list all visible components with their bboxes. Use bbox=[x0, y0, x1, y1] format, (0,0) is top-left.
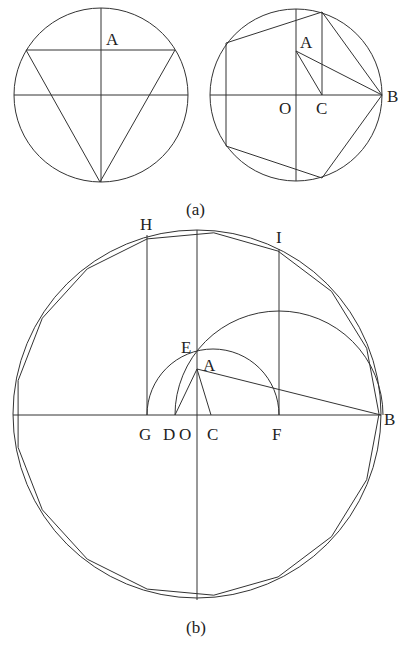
point-label-b: B bbox=[384, 410, 395, 429]
point-label-o: O bbox=[279, 99, 291, 118]
caption-a: (a) bbox=[186, 200, 205, 219]
point-label-g: G bbox=[139, 425, 151, 444]
construction-line bbox=[197, 369, 381, 415]
figure-a-triangle-construction: A bbox=[14, 8, 188, 182]
point-label-e: E bbox=[181, 338, 191, 357]
construction-line bbox=[100, 50, 175, 182]
point-label-o: O bbox=[179, 425, 191, 444]
construction-line bbox=[26, 50, 100, 182]
point-label-a: A bbox=[106, 30, 119, 49]
point-label-h: H bbox=[140, 215, 152, 234]
point-label-b: B bbox=[387, 87, 398, 106]
construction-line bbox=[175, 369, 197, 415]
point-label-i: I bbox=[276, 228, 282, 247]
geometry-diagram: A AOCB (a) HIEAGDOCFB (b) bbox=[0, 0, 405, 652]
point-label-a: A bbox=[300, 33, 313, 52]
caption-b: (b) bbox=[186, 618, 206, 637]
figure-a-pentagon-construction: AOCB bbox=[210, 9, 398, 181]
construction-line bbox=[197, 369, 211, 415]
figure-b-heptadecagon-construction: HIEAGDOCFB bbox=[13, 215, 395, 600]
point-label-c: C bbox=[316, 99, 327, 118]
point-label-d: D bbox=[163, 425, 175, 444]
point-label-f: F bbox=[272, 425, 281, 444]
inscribed-heptadecagon bbox=[18, 233, 379, 595]
point-label-c: C bbox=[207, 425, 218, 444]
point-label-a: A bbox=[203, 356, 216, 375]
